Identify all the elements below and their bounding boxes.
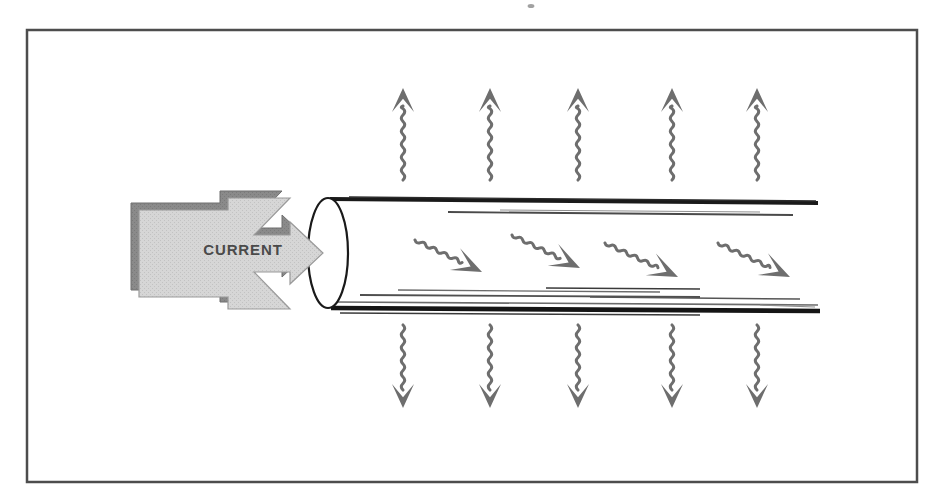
current-arrow-label: CURRENT bbox=[203, 241, 283, 258]
pipe-bottom-line-4 bbox=[546, 288, 700, 289]
scan-speck bbox=[528, 4, 535, 8]
figure-canvas: CURRENT bbox=[0, 0, 935, 503]
pipe-bottom-line-6 bbox=[331, 308, 820, 311]
figure-root: CURRENT bbox=[0, 0, 935, 503]
scan-speck-group bbox=[528, 4, 535, 8]
